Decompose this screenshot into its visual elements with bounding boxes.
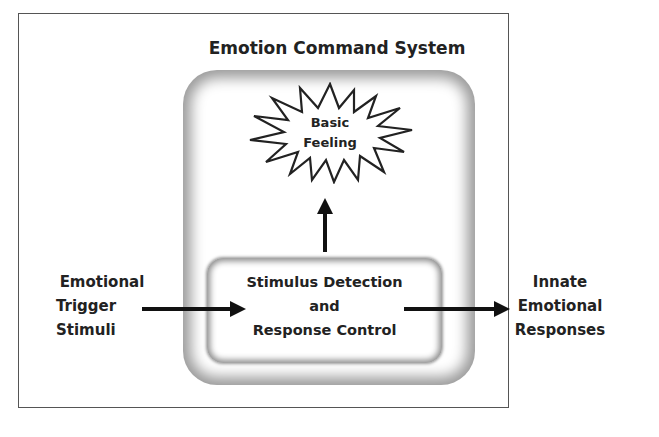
core-line-2: and [207,294,442,318]
input-line-1: Emotional [42,270,162,294]
input-line-2: Trigger [42,294,162,318]
burst-line-2: Feeling [244,133,416,153]
basic-feeling-label: Basic Feeling [244,113,416,153]
diagram-title: Emotion Command System [187,38,487,58]
input-label: Emotional Trigger Stimuli [42,270,162,342]
core-line-3: Response Control [207,318,442,342]
input-line-3: Stimuli [42,318,162,342]
output-line-1: Innate [500,270,620,294]
output-line-2: Emotional [500,294,620,318]
output-label: Innate Emotional Responses [500,270,620,342]
stimulus-detection-label: Stimulus Detection and Response Control [207,270,442,342]
output-line-3: Responses [500,318,620,342]
burst-line-1: Basic [244,113,416,133]
core-line-1: Stimulus Detection [207,270,442,294]
